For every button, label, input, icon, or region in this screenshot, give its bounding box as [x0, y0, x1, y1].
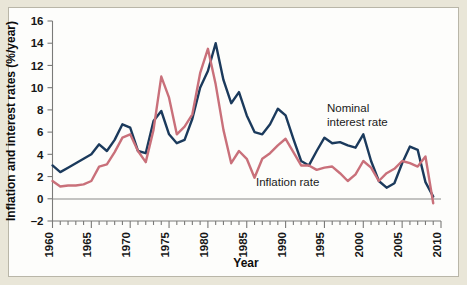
annotation-nominal-line-1: Nominal — [327, 102, 369, 114]
x-tick-group: 1960196519701975198019851990199520002005… — [43, 221, 444, 258]
x-tick-label: 1960 — [43, 232, 55, 258]
annotation-inflation-line-1: Inflation rate — [256, 176, 319, 188]
x-tick-label: 1970 — [120, 232, 132, 258]
y-tick-label: 2 — [37, 171, 43, 183]
y-tick-label: 8 — [37, 104, 44, 116]
chart-figure: –20246810121416 196019651970197519801985… — [0, 0, 467, 285]
x-tick-label: 2000 — [353, 232, 365, 258]
y-tick-label: 12 — [31, 60, 44, 72]
x-tick-label: 1990 — [276, 232, 288, 258]
line-chart: –20246810121416 196019651970197519801985… — [0, 0, 467, 285]
annotation-inflation-rate: Inflation rate — [256, 176, 319, 188]
y-tick-label: 6 — [37, 126, 43, 138]
y-tick-label: 4 — [37, 149, 44, 161]
x-tick-label: 2010 — [431, 232, 443, 258]
x-tick-label: 1995 — [314, 231, 326, 257]
annotation-nominal-line-2: interest rate — [327, 116, 388, 128]
y-tick-label: 0 — [37, 193, 43, 205]
x-tick-label: 1980 — [198, 232, 210, 258]
y-tick-label: 10 — [31, 82, 44, 94]
y-tick-group: –20246810121416 — [31, 15, 53, 227]
y-axis-title: Inflation and interest rates (%/year) — [4, 21, 18, 221]
x-tick-label: 2005 — [392, 231, 404, 257]
x-tick-label: 1985 — [237, 231, 249, 257]
x-tick-label: 1975 — [159, 231, 171, 257]
annotation-nominal-interest-rate: Nominal interest rate — [327, 102, 388, 128]
y-tick-label: –2 — [31, 215, 44, 227]
x-tick-label: 1965 — [81, 231, 93, 257]
y-tick-label: 14 — [31, 37, 44, 49]
y-tick-label: 16 — [31, 15, 44, 27]
x-axis-title: Year — [233, 256, 259, 270]
